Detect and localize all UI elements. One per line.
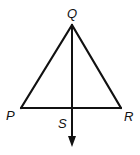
segment-qr xyxy=(72,25,121,108)
label-q: Q xyxy=(67,6,77,21)
segment-qp xyxy=(21,25,72,108)
triangle-diagram: Q P R S xyxy=(0,0,140,155)
label-r: R xyxy=(124,109,133,124)
label-p: P xyxy=(6,108,15,123)
diagram: Q P R S xyxy=(0,0,140,155)
label-s: S xyxy=(58,116,67,131)
ray-arrowhead-icon xyxy=(68,136,76,147)
